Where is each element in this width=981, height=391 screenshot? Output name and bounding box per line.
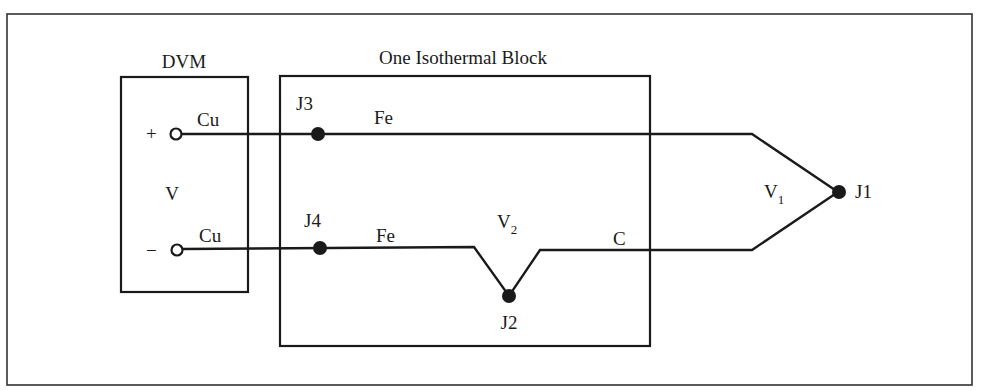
j1-junction-icon xyxy=(832,185,846,199)
j4-label: J4 xyxy=(304,210,321,231)
isothermal-block: One Isothermal Block J3 J4 Fe Fe V2 C J2 xyxy=(280,47,650,346)
dvm: DVM V + − Cu Cu xyxy=(121,51,248,292)
j2-label: J2 xyxy=(501,312,518,333)
dvm-title: DVM xyxy=(162,51,206,72)
j3-junction-icon xyxy=(311,127,325,141)
minus-terminal-icon xyxy=(172,245,183,256)
dvm-box xyxy=(121,77,248,292)
minus-sign: − xyxy=(146,240,157,261)
fe-top-label: Fe xyxy=(374,107,393,128)
cu-bottom-label: Cu xyxy=(199,225,222,246)
isothermal-block-title: One Isothermal Block xyxy=(379,47,547,68)
plus-sign: + xyxy=(146,123,157,144)
j4-junction-icon xyxy=(313,241,327,255)
j3-label: J3 xyxy=(296,93,313,114)
fe-bottom-label: Fe xyxy=(376,225,395,246)
dvm-voltage-label: V xyxy=(165,183,179,204)
c-wire-label: C xyxy=(613,228,626,249)
thermocouple-diagram: DVM V + − Cu Cu One Isothermal Block J3 … xyxy=(0,0,981,391)
v2-label: V2 xyxy=(497,211,517,237)
v1-label: V1 xyxy=(764,181,784,207)
cu-top-label: Cu xyxy=(197,109,220,130)
j1-label: J1 xyxy=(855,181,872,202)
j2-junction-icon xyxy=(502,289,516,303)
plus-terminal-icon xyxy=(171,129,182,140)
isothermal-block-box xyxy=(280,76,650,346)
